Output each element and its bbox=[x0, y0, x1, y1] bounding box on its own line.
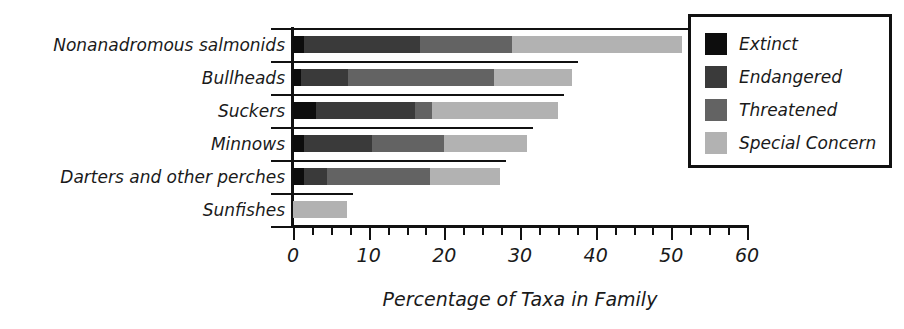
bar-segment-threatened bbox=[420, 36, 512, 53]
category-label: Suckers bbox=[218, 103, 285, 120]
bar-segment-endangered bbox=[301, 69, 349, 86]
x-axis-tick-label: 20 bbox=[432, 244, 456, 266]
bar-segment-special bbox=[494, 69, 572, 86]
legend-item[interactable]: Threatened bbox=[705, 93, 889, 126]
bar-segment-extinct bbox=[293, 69, 301, 86]
stacked-bar bbox=[293, 69, 572, 86]
x-axis-minor-tick bbox=[634, 228, 636, 235]
legend-label: Endangered bbox=[739, 67, 842, 87]
x-axis-minor-tick bbox=[482, 228, 484, 235]
bar-segment-endangered bbox=[304, 135, 371, 152]
legend-label: Extinct bbox=[739, 34, 798, 54]
x-axis-tick-label: 60 bbox=[735, 244, 759, 266]
x-axis-minor-tick bbox=[407, 228, 409, 235]
bar-segment-threatened bbox=[415, 102, 432, 119]
x-axis-major-tick bbox=[671, 228, 673, 240]
bar-segment-threatened bbox=[327, 168, 430, 185]
stacked-bar bbox=[293, 201, 347, 218]
x-axis-title: Percentage of Taxa in Family bbox=[293, 288, 747, 310]
x-axis-minor-tick bbox=[709, 228, 711, 235]
bar-segment-extinct bbox=[293, 135, 304, 152]
bar-segment-special bbox=[512, 36, 682, 53]
x-axis-major-tick bbox=[369, 228, 371, 240]
bar-row bbox=[293, 193, 347, 226]
bar-row bbox=[293, 160, 500, 193]
x-axis-minor-tick bbox=[425, 228, 427, 235]
x-axis-minor-tick bbox=[728, 228, 730, 235]
category-label: Darters and other perches bbox=[60, 169, 285, 186]
x-axis-tick-label: 40 bbox=[584, 244, 608, 266]
x-axis-tick-label: 10 bbox=[357, 244, 381, 266]
x-axis-major-tick bbox=[293, 228, 295, 240]
bar-segment-special bbox=[444, 135, 526, 152]
bar-row bbox=[293, 61, 572, 94]
legend-label: Special Concern bbox=[739, 133, 876, 153]
x-axis-tick-label: 30 bbox=[508, 244, 532, 266]
x-axis-minor-tick bbox=[577, 228, 579, 235]
x-axis-major-tick bbox=[520, 228, 522, 240]
bar-segment-extinct bbox=[293, 168, 304, 185]
legend-item[interactable]: Special Concern bbox=[705, 126, 889, 159]
x-axis-minor-tick bbox=[652, 228, 654, 235]
stacked-bar bbox=[293, 102, 558, 119]
legend-swatch-threatened bbox=[705, 99, 727, 121]
legend-item[interactable]: Endangered bbox=[705, 60, 889, 93]
bar-segment-endangered bbox=[304, 168, 327, 185]
legend-item[interactable]: Extinct bbox=[705, 27, 889, 60]
stacked-bar bbox=[293, 135, 527, 152]
x-axis-minor-tick bbox=[539, 228, 541, 235]
legend: ExtinctEndangeredThreatenedSpecial Conce… bbox=[688, 14, 892, 168]
bar-row bbox=[293, 28, 682, 61]
legend-label: Threatened bbox=[739, 100, 837, 120]
category-labels: Nonanadromous salmonidsBullheadsSuckersM… bbox=[0, 0, 285, 329]
category-label: Nonanadromous salmonids bbox=[53, 37, 285, 54]
x-axis-minor-tick bbox=[615, 228, 617, 235]
x-axis-tick-label: 0 bbox=[287, 244, 299, 266]
bar-segment-endangered bbox=[304, 36, 420, 53]
x-axis-minor-tick bbox=[690, 228, 692, 235]
x-axis-major-tick bbox=[596, 228, 598, 240]
legend-swatch-endangered bbox=[705, 66, 727, 88]
bar-row bbox=[293, 94, 558, 127]
bar-row bbox=[293, 127, 527, 160]
x-axis-minor-tick bbox=[463, 228, 465, 235]
x-axis-minor-tick bbox=[312, 228, 314, 235]
x-axis-minor-tick bbox=[558, 228, 560, 235]
x-axis-major-tick bbox=[444, 228, 446, 240]
x-axis-minor-tick bbox=[501, 228, 503, 235]
category-label: Sunfishes bbox=[203, 202, 285, 219]
bar-segment-special bbox=[293, 201, 347, 218]
bar-segment-threatened bbox=[348, 69, 494, 86]
stacked-bar bbox=[293, 168, 500, 185]
x-axis-minor-tick bbox=[331, 228, 333, 235]
x-axis-minor-tick bbox=[388, 228, 390, 235]
plot-area bbox=[293, 28, 747, 226]
bar-segment-endangered bbox=[316, 102, 415, 119]
bar-segment-special bbox=[432, 102, 558, 119]
horizontal-stacked-bar-chart: Nonanadromous salmonidsBullheadsSuckersM… bbox=[0, 0, 904, 329]
x-axis-minor-tick bbox=[350, 228, 352, 235]
legend-swatch-extinct bbox=[705, 33, 727, 55]
legend-swatch-special bbox=[705, 132, 727, 154]
x-axis-major-tick bbox=[747, 228, 749, 240]
bar-segment-special bbox=[430, 168, 500, 185]
category-label: Minnows bbox=[211, 136, 285, 153]
x-axis-tick-label: 50 bbox=[659, 244, 683, 266]
bar-segment-threatened bbox=[372, 135, 445, 152]
bar-segment-extinct bbox=[293, 102, 316, 119]
category-label: Bullheads bbox=[202, 70, 285, 87]
bar-segment-extinct bbox=[293, 36, 304, 53]
stacked-bar bbox=[293, 36, 682, 53]
